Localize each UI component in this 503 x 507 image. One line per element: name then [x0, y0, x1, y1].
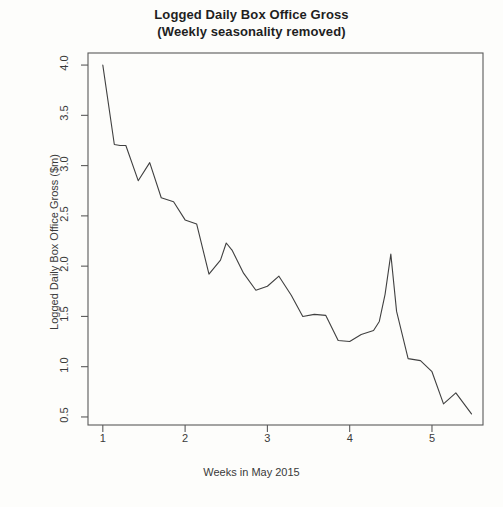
x-tick-label: 4 [338, 432, 362, 444]
x-axis-title: Weeks in May 2015 [0, 466, 503, 478]
y-tick-label: 0.5 [58, 398, 70, 432]
data-series-line [103, 65, 472, 414]
x-tick-label: 3 [255, 432, 279, 444]
x-tick-label: 1 [91, 432, 115, 444]
chart-figure: Logged Daily Box Office Gross (Weekly se… [0, 0, 503, 507]
y-tick-label: 4.0 [58, 46, 70, 80]
x-tick-label: 5 [420, 432, 444, 444]
x-axis-ticks [103, 425, 432, 432]
plot-area [0, 0, 503, 507]
y-axis-title: Logged Daily Box Office Gross ($m) [48, 92, 60, 392]
plot-frame [88, 53, 483, 425]
x-tick-label: 2 [173, 432, 197, 444]
y-axis-ticks [81, 65, 88, 417]
